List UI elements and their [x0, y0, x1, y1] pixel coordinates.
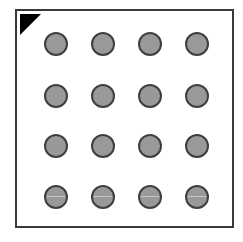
well-circle[interactable]: [44, 134, 68, 158]
well-circle[interactable]: [185, 185, 209, 209]
well-circle[interactable]: [91, 32, 115, 56]
well-circle[interactable]: [185, 32, 209, 56]
well-circle[interactable]: [185, 84, 209, 108]
well-circle[interactable]: [91, 84, 115, 108]
figure-canvas: [0, 0, 243, 242]
well-circle[interactable]: [138, 185, 162, 209]
well-circle[interactable]: [44, 84, 68, 108]
well-circle[interactable]: [185, 134, 209, 158]
well-circle[interactable]: [44, 32, 68, 56]
well-grid: [17, 11, 232, 226]
well-circle[interactable]: [44, 185, 68, 209]
well-circle[interactable]: [91, 134, 115, 158]
well-circle[interactable]: [91, 185, 115, 209]
well-circle[interactable]: [138, 32, 162, 56]
well-circle[interactable]: [138, 84, 162, 108]
plate-outline: [15, 9, 234, 228]
well-circle[interactable]: [138, 134, 162, 158]
